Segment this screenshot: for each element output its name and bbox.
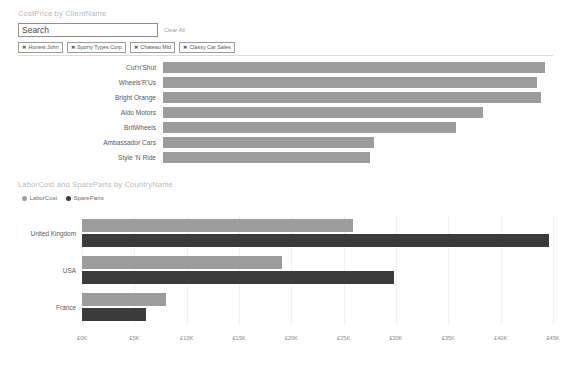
costprice-bar[interactable]: [163, 62, 545, 73]
labor-plot-area: United KingdomUSAFrance £0K£5K£10K£15K£2…: [18, 215, 553, 347]
costprice-bar-row[interactable]: Bright Orange: [18, 90, 553, 105]
x-axis-tick-label: £0K: [77, 335, 87, 341]
x-axis-tick-label: £5K: [129, 335, 139, 341]
active-filter-chips: ✖ Honest John ✖ Sporty Types Corp ✖ Chat…: [18, 42, 553, 53]
costprice-bar[interactable]: [163, 122, 456, 133]
costprice-category-label: Wheels'R'Us: [18, 79, 163, 86]
costprice-bar-track: [163, 122, 553, 133]
costprice-category-label: Ambassador Cars: [18, 139, 163, 146]
x-axis-tick-label: £20K: [285, 335, 298, 341]
x-axis-tick-label: £15K: [232, 335, 245, 341]
legend-item-spareparts[interactable]: SpareParts: [66, 195, 104, 201]
spareparts-bar[interactable]: [82, 234, 549, 247]
laborcost-bar[interactable]: [82, 219, 353, 232]
costprice-bar[interactable]: [163, 77, 537, 88]
costprice-category-label: Style 'N Ride: [18, 154, 163, 161]
costprice-bar-chart: Cut'n'ShutWheels'R'UsBright OrangeAldo M…: [18, 55, 553, 174]
labor-bar-group: France: [18, 293, 553, 325]
labor-category-label: France: [18, 304, 76, 311]
x-axis-tick-label: £25K: [337, 335, 350, 341]
costprice-bar-track: [163, 107, 553, 118]
search-input[interactable]: [18, 23, 158, 37]
x-axis-tick-label: £45K: [546, 335, 559, 341]
costprice-category-label: Bright Orange: [18, 94, 163, 101]
costprice-bar[interactable]: [163, 92, 541, 103]
costprice-bar-row[interactable]: Cut'n'Shut: [18, 60, 553, 75]
gridline: [553, 215, 554, 325]
costprice-bar-track: [163, 77, 553, 88]
x-axis-tick-label: £40K: [494, 335, 507, 341]
remove-filter-icon[interactable]: ✖: [71, 45, 75, 50]
labor-spareparts-bar-chart: LaborCost and SpareParts by CountryName …: [18, 180, 553, 370]
legend-label: SpareParts: [74, 195, 104, 201]
legend-label: LaborCost: [30, 195, 58, 201]
costprice-plot-area: Cut'n'ShutWheels'R'UsBright OrangeAldo M…: [18, 60, 553, 165]
labor-category-label: USA: [18, 267, 76, 274]
costprice-category-label: BritWheels: [18, 124, 163, 131]
labor-bar-group: United Kingdom: [18, 219, 553, 251]
costprice-bar-track: [163, 92, 553, 103]
filter-chip[interactable]: ✖ Classy Car Sales: [179, 42, 235, 53]
filter-chip-label: Sporty Types Corp: [77, 45, 122, 50]
x-axis-tick-label: £35K: [442, 335, 455, 341]
labor-bar-group: USA: [18, 256, 553, 288]
costprice-bar-row[interactable]: BritWheels: [18, 120, 553, 135]
slicer-search-row: Clear All: [18, 23, 553, 37]
laborcost-bar[interactable]: [82, 256, 282, 269]
spareparts-bar[interactable]: [82, 271, 394, 284]
clear-all-button[interactable]: Clear All: [164, 27, 185, 33]
costprice-category-label: Cut'n'Shut: [18, 64, 163, 71]
costprice-bar-track: [163, 62, 553, 73]
labor-x-axis: £0K£5K£10K£15K£20K£25K£30K£35K£40K£45K: [82, 331, 553, 347]
costprice-bar[interactable]: [163, 107, 483, 118]
labor-chart-title: LaborCost and SpareParts by CountryName: [18, 180, 553, 189]
costprice-category-label: Aldo Motors: [18, 109, 163, 116]
legend-swatch-icon: [22, 196, 27, 201]
filter-chip[interactable]: ✖ Sporty Types Corp: [67, 42, 126, 53]
legend-item-laborcost[interactable]: LaborCost: [22, 195, 57, 201]
laborcost-bar[interactable]: [82, 293, 166, 306]
costprice-bar-track: [163, 152, 553, 163]
costprice-bar[interactable]: [163, 152, 370, 163]
legend-swatch-icon: [66, 196, 71, 201]
costprice-bar-row[interactable]: Ambassador Cars: [18, 135, 553, 150]
filter-chip-label: Honest John: [29, 45, 59, 50]
filter-chip-label: Classy Car Sales: [189, 45, 230, 50]
filter-chip-label: Chateau Mid: [140, 45, 171, 50]
spareparts-bar[interactable]: [82, 308, 146, 321]
x-axis-tick-label: £30K: [389, 335, 402, 341]
remove-filter-icon[interactable]: ✖: [22, 45, 26, 50]
costprice-bar-row[interactable]: Style 'N Ride: [18, 150, 553, 165]
costprice-bar-row[interactable]: Aldo Motors: [18, 105, 553, 120]
labor-category-label: United Kingdom: [18, 230, 76, 237]
x-axis-tick-label: £10K: [180, 335, 193, 341]
slicer-title: CostPrice by ClientName: [18, 9, 553, 18]
remove-filter-icon[interactable]: ✖: [183, 45, 187, 50]
costprice-bar[interactable]: [163, 137, 374, 148]
filter-chip[interactable]: ✖ Chateau Mid: [130, 42, 175, 53]
costprice-bar-row[interactable]: Wheels'R'Us: [18, 75, 553, 90]
labor-chart-legend: LaborCost SpareParts: [22, 195, 553, 201]
costprice-bar-track: [163, 137, 553, 148]
remove-filter-icon[interactable]: ✖: [134, 45, 138, 50]
client-slicer-panel: CostPrice by ClientName Clear All ✖ Hone…: [18, 9, 553, 53]
filter-chip[interactable]: ✖ Honest John: [18, 42, 63, 53]
